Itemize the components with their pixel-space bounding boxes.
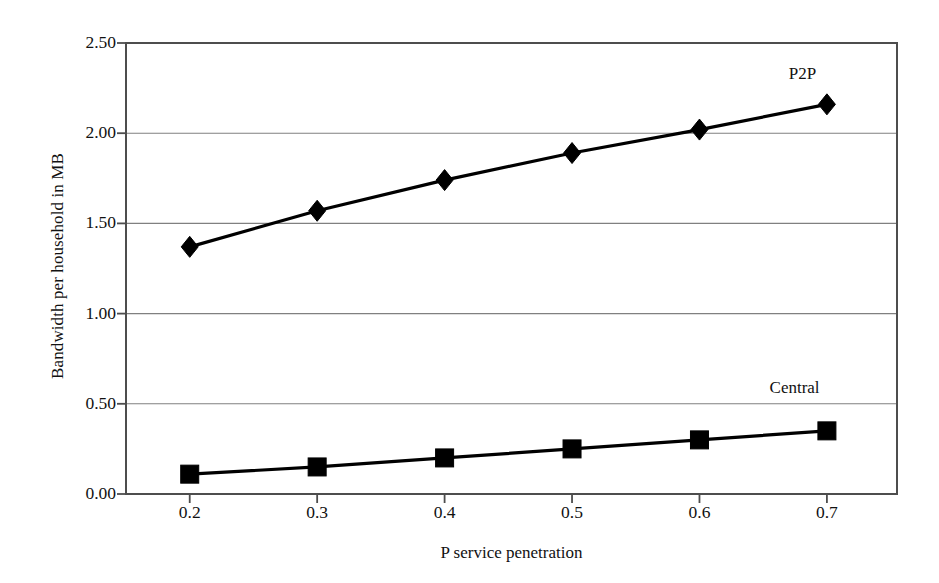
data-point-marker bbox=[691, 119, 708, 140]
data-point-marker bbox=[563, 440, 581, 458]
data-point-marker bbox=[818, 94, 835, 115]
series-central bbox=[181, 422, 836, 483]
x-axis-ticks bbox=[190, 494, 827, 503]
data-point-marker bbox=[436, 449, 454, 467]
data-point-marker bbox=[308, 458, 326, 476]
axis-frame bbox=[126, 43, 897, 494]
data-point-marker bbox=[818, 422, 836, 440]
series-p2p bbox=[181, 94, 835, 258]
y-axis-ticks bbox=[117, 43, 126, 494]
data-series-layer bbox=[181, 94, 836, 483]
x-axis-title: P service penetration bbox=[126, 543, 897, 563]
plot-area bbox=[0, 0, 939, 583]
data-point-marker bbox=[690, 431, 708, 449]
gridlines bbox=[126, 133, 897, 404]
plot-frame bbox=[126, 43, 897, 494]
chart-figure: Bandwidth per household in MB 0.000.501.… bbox=[0, 0, 939, 583]
data-point-marker bbox=[181, 465, 199, 483]
data-point-marker bbox=[564, 143, 581, 164]
data-point-marker bbox=[181, 236, 198, 257]
data-point-marker bbox=[436, 170, 453, 191]
series-label-central: Central bbox=[770, 378, 820, 398]
series-line bbox=[190, 431, 827, 474]
series-line bbox=[190, 104, 827, 247]
data-point-marker bbox=[309, 200, 326, 221]
series-label-p2p: P2P bbox=[789, 64, 816, 84]
